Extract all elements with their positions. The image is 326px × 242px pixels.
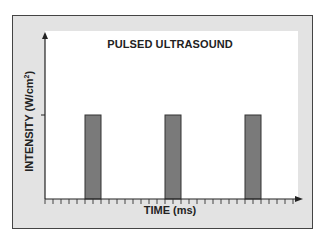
y-axis-label-text: INTENSITY (W/cm — [23, 78, 35, 171]
pulse-bar-1 — [85, 115, 101, 199]
x-axis-label: TIME (ms) — [125, 204, 215, 216]
y-axis-label: INTENSITY (W/cm2) — [23, 46, 36, 196]
pulse-bar-2 — [165, 115, 181, 199]
y-axis-label-superscript: 2 — [23, 75, 30, 79]
y-axis-label-close: ) — [23, 71, 35, 75]
chart-title: PULSED ULTRASOUND — [100, 38, 240, 50]
pulse-bar-3 — [245, 115, 261, 199]
